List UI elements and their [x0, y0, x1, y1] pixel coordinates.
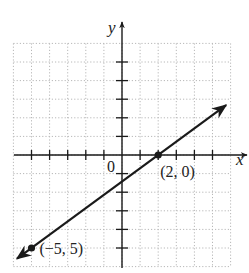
plot-svg: (2, 0)(−5, 5) x y 0 [0, 0, 249, 273]
data-point [155, 151, 162, 158]
y-axis-label: y [106, 18, 116, 37]
point-label: (−5, 5) [40, 240, 84, 258]
x-axis-label: x [235, 150, 244, 169]
origin-label: 0 [107, 158, 115, 175]
data-point [28, 244, 35, 251]
point-label: (2, 0) [160, 163, 195, 181]
axes [14, 22, 247, 268]
coordinate-plane-graph: (2, 0)(−5, 5) x y 0 [0, 0, 249, 273]
